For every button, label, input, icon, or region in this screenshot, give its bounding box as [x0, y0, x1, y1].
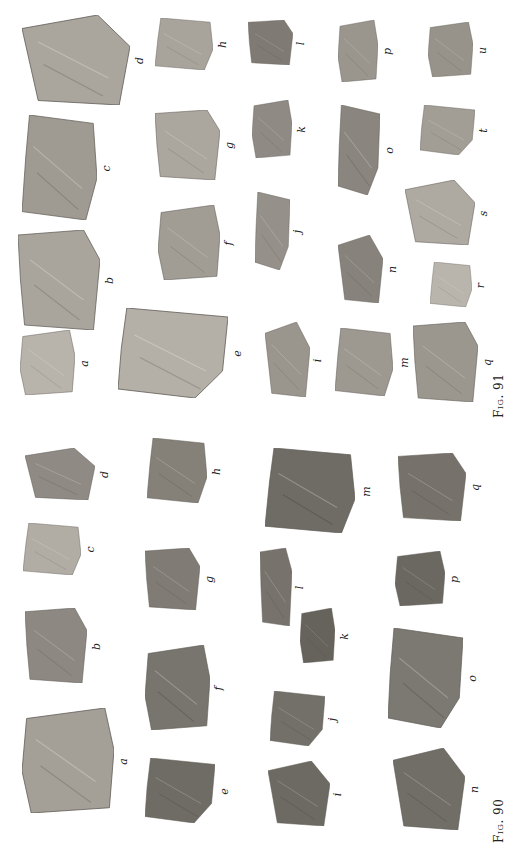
sherd-m [265, 448, 355, 533]
sherd-image [270, 691, 325, 746]
sherd-o [338, 105, 380, 195]
sherd-label-b: b [104, 277, 115, 284]
sherd-image [338, 20, 378, 82]
sherd-f [145, 645, 210, 730]
sherd-n [338, 235, 383, 303]
sherd-image [260, 548, 292, 626]
sherd-c [23, 523, 81, 575]
sherd-label-i: i [332, 792, 343, 796]
sherd-label-n: n [469, 786, 480, 793]
sherd-image [18, 230, 100, 330]
sherd-l [260, 548, 292, 626]
sherd-s [405, 180, 475, 245]
sherd-label-o: o [467, 675, 478, 682]
sherd-i [268, 761, 330, 826]
sherd-image [265, 448, 355, 533]
sherd-r [430, 262, 472, 307]
sherd-image [22, 708, 114, 813]
sherd-label-c: c [85, 546, 96, 552]
sherd-e [145, 758, 215, 823]
sherd-p [395, 551, 445, 606]
sherd-image [118, 308, 228, 398]
sherd-label-l: l [294, 586, 305, 590]
sherd-label-g: g [224, 142, 235, 149]
sherd-image [147, 438, 207, 503]
sherd-l [248, 20, 293, 65]
sherd-label-f: f [213, 686, 224, 690]
sherd-image [393, 748, 465, 830]
sherd-t [420, 105, 475, 155]
sherd-g [145, 548, 200, 610]
sherd-label-c: c [101, 165, 112, 171]
sherd-label-h: h [217, 41, 228, 48]
sherd-label-q: q [482, 359, 493, 366]
sherd-label-l: l [295, 41, 306, 45]
sherd-image [255, 192, 290, 270]
sherd-i [265, 322, 310, 397]
sherd-image [23, 523, 81, 575]
sherd-image [398, 453, 466, 521]
sherd-h [147, 438, 207, 503]
sherd-m [335, 328, 393, 396]
figure-90-caption: Fig. 90 [492, 799, 506, 843]
sherd-f [158, 205, 220, 280]
sherd-image [22, 15, 130, 105]
sherd-image [25, 448, 95, 500]
sherd-label-j: j [292, 230, 303, 233]
sherd-label-e: e [232, 350, 243, 357]
sherd-e [118, 308, 228, 398]
sherd-image [338, 235, 383, 303]
sherd-g [155, 110, 220, 180]
sherd-label-p: p [449, 575, 460, 582]
sherd-image [145, 758, 215, 823]
sherd-label-p: p [382, 48, 393, 55]
sherd-image [20, 330, 75, 395]
sherd-image [428, 22, 473, 77]
sherd-label-r: r [475, 282, 486, 287]
sherd-image [268, 761, 330, 826]
sherd-q [413, 322, 478, 402]
sherd-k [252, 100, 292, 158]
sherd-h [155, 18, 213, 70]
sherd-c [22, 115, 97, 220]
sherd-image [405, 180, 475, 245]
sherd-image [248, 20, 293, 65]
sherd-image [155, 18, 213, 70]
sherd-a [22, 708, 114, 813]
sherd-image [395, 551, 445, 606]
sherd-label-g: g [204, 576, 215, 583]
sherd-o [388, 628, 463, 728]
sherd-image [145, 548, 200, 610]
sherd-label-q: q [470, 484, 481, 491]
sherd-label-t: t [478, 128, 489, 132]
sherd-q [398, 453, 466, 521]
sherd-label-d: d [99, 471, 110, 478]
figure-91-caption: Fig. 91 [492, 374, 506, 418]
sherd-b [18, 230, 100, 330]
sherd-image [430, 262, 472, 307]
sherd-label-e: e [219, 788, 230, 795]
sherd-label-o: o [384, 147, 395, 154]
figure-90-plate: abcdefghijklmnopq [0, 423, 515, 846]
sherd-label-f: f [223, 241, 234, 245]
sherd-label-h: h [211, 467, 222, 474]
sherd-label-a: a [118, 758, 129, 765]
sherd-d [22, 15, 130, 105]
sherd-label-b: b [91, 642, 102, 649]
sherd-image [338, 105, 380, 195]
sherd-label-m: m [361, 486, 372, 496]
sherd-image [252, 100, 292, 158]
sherd-label-k: k [339, 633, 350, 640]
sherd-n [393, 748, 465, 830]
sherd-label-d: d [134, 57, 145, 64]
sherd-image [22, 115, 97, 220]
sherd-label-s: s [478, 210, 489, 216]
figure-91-plate: abcdefghijklmnopqrstu [0, 0, 515, 423]
sherd-image [388, 628, 463, 728]
sherd-image [265, 322, 310, 397]
sherd-a [20, 330, 75, 395]
sherd-image [25, 608, 87, 683]
sherd-image [145, 645, 210, 730]
sherd-label-m: m [399, 357, 410, 367]
sherd-image [155, 110, 220, 180]
